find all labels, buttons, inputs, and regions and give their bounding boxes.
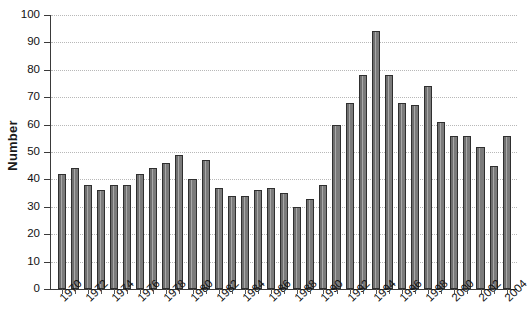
bar-1994 [372,31,380,289]
x-tick-1999 [441,289,442,294]
bar-1990 [319,185,327,289]
bar-1975 [123,185,131,289]
x-tick-1993 [363,289,364,294]
gridline-70 [51,97,517,98]
bar-1982 [215,188,223,289]
y-tick-label-80: 80 [0,64,40,76]
bar-1985 [254,190,262,289]
bar-1987 [280,193,288,289]
bar-1999 [437,122,445,289]
bar-1974 [110,185,118,289]
bar-1973 [97,190,105,289]
y-tick-label-60: 60 [0,119,40,131]
bar-1978 [162,163,170,289]
bar-2000 [450,136,458,289]
bar-1976 [136,174,144,289]
plot-area [51,15,517,289]
bar-1992 [346,103,354,289]
gridline-80 [51,70,517,71]
gridline-100 [51,15,517,16]
x-tick-1997 [415,289,416,294]
x-tick-1983 [232,289,233,294]
x-tick-1989 [310,289,311,294]
bar-2001 [463,136,471,289]
y-tick-label-50: 50 [0,146,40,158]
bar-1977 [149,168,157,289]
y-tick-label-40: 40 [0,173,40,185]
x-tick-1981 [206,289,207,294]
gridline-50 [51,152,517,153]
y-tick-label-0: 0 [0,283,40,295]
gridline-90 [51,42,517,43]
y-tick-0 [44,289,50,290]
y-tick-10 [44,262,50,263]
x-tick-1977 [153,289,154,294]
y-tick-label-20: 20 [0,228,40,240]
bar-1971 [71,168,79,289]
x-tick-1973 [101,289,102,294]
x-tick-2003 [494,289,495,294]
x-tick-1985 [258,289,259,294]
y-tick-label-70: 70 [0,91,40,103]
gridline-40 [51,179,517,180]
bar-1980 [188,179,196,289]
bar-2004 [503,136,511,289]
bar-1972 [84,185,92,289]
bar-1996 [398,103,406,289]
y-tick-30 [44,207,50,208]
bar-2002 [476,147,484,289]
bar-2003 [490,166,498,289]
y-tick-70 [44,97,50,98]
bar-1983 [228,196,236,289]
y-tick-100 [44,15,50,16]
bar-1997 [411,105,419,289]
bar-1993 [359,75,367,289]
bar-1981 [202,160,210,289]
x-tick-1979 [179,289,180,294]
y-tick-60 [44,125,50,126]
bar-1970 [58,174,66,289]
bar-1998 [424,86,432,289]
y-tick-label-30: 30 [0,201,40,213]
bar-1979 [175,155,183,289]
bar-1988 [293,207,301,289]
y-tick-label-90: 90 [0,36,40,48]
bar-1991 [332,125,340,289]
y-tick-50 [44,152,50,153]
bar-1995 [385,75,393,289]
bar-1986 [267,188,275,289]
y-tick-20 [44,234,50,235]
x-tick-1971 [75,289,76,294]
x-tick-1975 [127,289,128,294]
y-tick-80 [44,70,50,71]
x-tick-1987 [284,289,285,294]
y-tick-90 [44,42,50,43]
x-tick-1995 [389,289,390,294]
x-tick-1991 [337,289,338,294]
bar-1989 [306,199,314,289]
y-tick-label-100: 100 [0,9,40,21]
y-tick-label-10: 10 [0,256,40,268]
y-tick-40 [44,179,50,180]
bar-1984 [241,196,249,289]
x-tick-2001 [467,289,468,294]
gridline-60 [51,125,517,126]
